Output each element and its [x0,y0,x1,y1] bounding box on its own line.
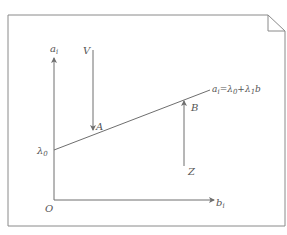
point-b-label: B [190,102,198,113]
point-a-label: A [95,121,103,132]
z-label: Z [187,166,196,177]
origin-label: O [45,203,53,214]
regression-diagram: ai bi O λ0 V A B Z ai=λ0+λ1b [0,0,287,235]
